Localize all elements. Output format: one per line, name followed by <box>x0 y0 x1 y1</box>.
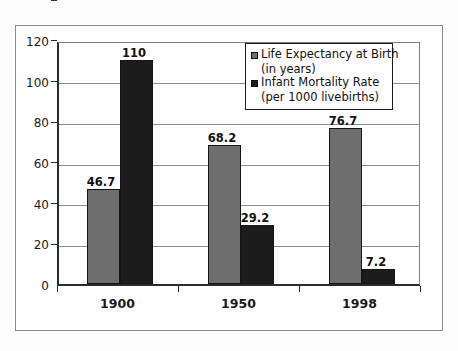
bar-value-label: 29.2 <box>241 211 269 225</box>
legend-swatch-icon-series1 <box>251 80 258 87</box>
bar-1998-series1[interactable] <box>362 269 395 284</box>
y-axis-tick-label: 80 <box>34 116 49 130</box>
legend-item-infant-mortality[interactable]: Infant Mortality Rate <box>251 76 387 90</box>
bar-value-label: 76.7 <box>329 114 357 128</box>
x-axis-label-1900: 1900 <box>100 296 135 311</box>
legend-item-life-expectancy[interactable]: Life Expectancy at Birth <box>251 48 387 62</box>
y-axis-tick-mark <box>51 244 57 245</box>
y-axis-tick-mark <box>51 203 57 204</box>
legend-label-series1: Infant Mortality Rate <box>261 76 379 90</box>
gridline <box>59 124 419 125</box>
bar-1950-series1[interactable] <box>241 225 274 284</box>
y-axis-tick-label: 120 <box>26 35 49 49</box>
legend-label-series0: Life Expectancy at Birth <box>261 48 399 62</box>
x-axis-tick-mark <box>178 286 179 292</box>
x-axis-label-1950: 1950 <box>221 296 256 311</box>
bar-value-label: 68.2 <box>208 131 236 145</box>
y-axis-tick-mark <box>51 81 57 82</box>
chart-legend[interactable]: Life Expectancy at Birth (in years) Infa… <box>245 43 393 110</box>
y-axis-tick-label: 60 <box>34 157 49 171</box>
y-axis: 020406080100120 <box>15 42 49 286</box>
y-axis-tick-mark <box>51 162 57 163</box>
bar-value-label: 46.7 <box>87 175 115 189</box>
y-axis-tick-label: 20 <box>34 238 49 252</box>
bar-1998-series0[interactable] <box>329 128 362 284</box>
bar-1950-series0[interactable] <box>208 145 241 284</box>
y-axis-tick-mark <box>51 40 57 41</box>
x-axis-tick-mark <box>420 286 421 292</box>
y-axis-tick-label: 40 <box>34 198 49 212</box>
bar-value-label: 110 <box>122 46 146 60</box>
chart-figure: 020406080100120 Life Expectancy at Birth… <box>0 0 458 351</box>
y-axis-tick-label: 0 <box>41 279 49 293</box>
legend-swatch-icon-series0 <box>251 52 258 59</box>
x-axis-tick-mark <box>57 286 58 292</box>
y-axis-tick-mark <box>51 0 57 1</box>
bar-1900-series1[interactable] <box>120 60 153 284</box>
x-axis-tick-mark <box>299 286 300 292</box>
y-axis-tick-mark <box>51 122 57 123</box>
bar-value-label: 7.2 <box>366 255 386 269</box>
x-axis-label-1998: 1998 <box>342 296 377 311</box>
legend-label-series1-line2: (per 1000 livebirths) <box>251 91 387 105</box>
legend-label-series0-line2: (in years) <box>251 63 387 77</box>
bar-1900-series0[interactable] <box>87 189 120 284</box>
y-axis-tick-label: 100 <box>26 76 49 90</box>
